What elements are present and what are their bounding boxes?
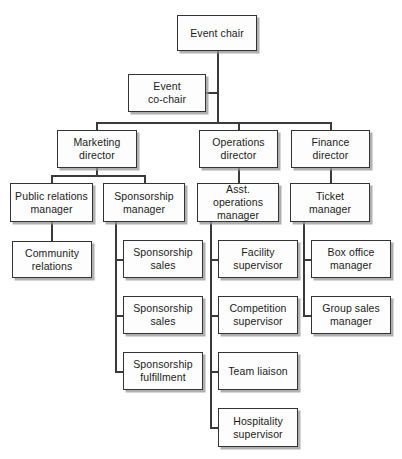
connector-sponsorship-spine [115, 222, 117, 372]
node-event-co-chair[interactable]: Event co-chair [128, 74, 206, 112]
connector-finance-stem [330, 168, 332, 184]
node-public-relations-manager[interactable]: Public relations manager [10, 183, 93, 222]
node-label: Hospitality supervisor [231, 415, 285, 441]
node-label: Event chair [188, 27, 246, 40]
node-label: Sponsorship sales [131, 302, 194, 328]
org-chart: Event chairEvent co-chairMarketing direc… [0, 0, 402, 459]
connector-pr-to-community [51, 222, 53, 242]
node-label: Marketing director [71, 136, 122, 162]
node-label: Ticket manager [307, 190, 353, 216]
node-label: Group sales manager [320, 302, 382, 328]
node-hospitality-supervisor[interactable]: Hospitality supervisor [218, 408, 298, 447]
connector-operations-spine [210, 222, 212, 428]
connector-finance-spine [303, 222, 305, 316]
node-label: Sponsorship fulfillment [131, 358, 194, 384]
node-group-sales-manager[interactable]: Group sales manager [311, 296, 391, 334]
node-label: Public relations manager [13, 190, 90, 216]
node-label: Sponsorship sales [131, 246, 194, 272]
node-label: Asst. operations manager [198, 183, 278, 222]
node-event-chair[interactable]: Event chair [177, 15, 257, 51]
node-label: Event co-chair [146, 80, 188, 106]
node-sponsorship-sales-1[interactable]: Sponsorship sales [123, 240, 203, 278]
node-label: Finance director [309, 136, 351, 162]
node-marketing-director[interactable]: Marketing director [57, 130, 137, 168]
node-box-office-manager[interactable]: Box office manager [311, 240, 391, 278]
node-ticket-manager[interactable]: Ticket manager [290, 183, 370, 222]
node-team-liaison[interactable]: Team liaison [218, 352, 298, 390]
node-label: Competition supervisor [227, 302, 288, 328]
connector-director-bus [96, 122, 331, 124]
connector-operations-stem [238, 168, 240, 184]
node-label: Operations director [210, 136, 266, 162]
node-community-relations[interactable]: Community relations [12, 241, 92, 278]
node-sponsorship-manager[interactable]: Sponsorship manager [103, 183, 185, 222]
node-sponsorship-fulfillment[interactable]: Sponsorship fulfillment [123, 352, 203, 390]
node-competition-supervisor[interactable]: Competition supervisor [218, 296, 298, 334]
node-label: Community relations [23, 247, 81, 273]
node-label: Team liaison [226, 365, 290, 378]
node-label: Facility supervisor [231, 246, 284, 272]
node-sponsorship-sales-2[interactable]: Sponsorship sales [123, 296, 203, 334]
node-facility-supervisor[interactable]: Facility supervisor [218, 240, 298, 278]
node-operations-director[interactable]: Operations director [199, 130, 278, 168]
node-asst-operations-manager[interactable]: Asst. operations manager [197, 183, 279, 222]
node-finance-director[interactable]: Finance director [291, 130, 370, 168]
connector-cochair-stub [206, 92, 218, 94]
connector-marketing-split-bus [51, 175, 145, 177]
node-label: Box office manager [326, 246, 377, 272]
node-label: Sponsorship manager [112, 190, 175, 216]
